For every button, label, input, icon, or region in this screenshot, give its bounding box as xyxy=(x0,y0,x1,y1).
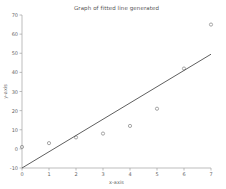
x-tick-label: 2 xyxy=(74,171,77,177)
y-tick-label: 40 xyxy=(12,69,18,75)
y-tick-label: 60 xyxy=(12,31,18,37)
y-tick-label: 0 xyxy=(15,146,18,152)
data-point xyxy=(47,142,50,145)
figure-window: Graph of fitted line generated 01234567-… xyxy=(0,0,226,189)
data-point xyxy=(209,23,212,26)
x-tick-label: 0 xyxy=(20,171,23,177)
x-axis-label: x-axis xyxy=(109,179,124,185)
x-tick-label: 5 xyxy=(155,171,158,177)
y-tick-label: 50 xyxy=(12,50,18,56)
data-point xyxy=(128,124,131,127)
fitted-line xyxy=(22,54,211,168)
y-tick-label: 10 xyxy=(12,127,18,133)
y-tick-label: 30 xyxy=(12,89,18,95)
data-point xyxy=(101,132,104,135)
y-tick-label: -10 xyxy=(10,165,18,171)
x-tick-label: 4 xyxy=(128,171,131,177)
data-point xyxy=(155,107,158,110)
x-tick-label: 3 xyxy=(101,171,104,177)
y-tick-label: 20 xyxy=(12,108,18,114)
x-tick-label: 6 xyxy=(182,171,185,177)
scatter-plot-canvas: 01234567-10010203040506070x-axisy-axis xyxy=(0,0,226,189)
x-tick-label: 7 xyxy=(209,171,212,177)
y-tick-label: 70 xyxy=(12,12,18,18)
x-tick-label: 1 xyxy=(47,171,50,177)
y-axis-label: y-axis xyxy=(2,84,9,99)
